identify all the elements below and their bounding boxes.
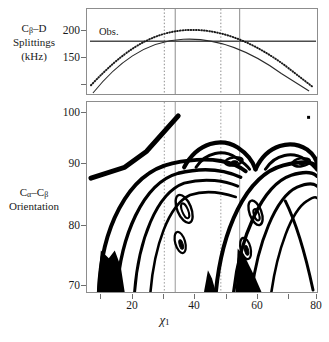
contour-left-dome-4 — [150, 192, 235, 292]
splittings-solid-curve — [93, 39, 309, 93]
xtick-60: 60 — [244, 299, 270, 311]
contour-lines-group — [91, 116, 317, 292]
top-y-label-line2: Splittings — [2, 36, 66, 50]
xtick-mark-50 — [226, 294, 227, 299]
point-marker — [307, 116, 310, 119]
obs-label: Obs. — [99, 26, 119, 37]
bottom-ytick-100: 100 — [48, 106, 80, 118]
chi-subscript: 1 — [165, 317, 170, 327]
xtick-40: 40 — [181, 299, 207, 311]
bottom-y-label-line2: Orientation — [2, 200, 66, 214]
bottom-ytick-70: 70 — [48, 279, 80, 291]
contour-center-node-right-core — [299, 162, 306, 166]
beta-subscript-2: β — [44, 190, 48, 199]
xtick-20: 20 — [119, 299, 145, 311]
top-ytick-200: 200 — [52, 24, 80, 36]
contour-center-node-left-core — [231, 161, 238, 165]
contour-left-ring-core — [178, 239, 185, 250]
x-axis-title: χ1 — [0, 312, 329, 328]
xtick-mark-30 — [163, 294, 164, 299]
xtick-mark-10 — [100, 294, 101, 299]
contour-right-ring-lower-core — [243, 245, 249, 256]
orientation-contour-panel — [86, 101, 318, 293]
basin-center — [204, 270, 216, 292]
splittings-plot-panel — [86, 8, 318, 95]
xtick-mark-70 — [288, 294, 289, 299]
contour-left-ring-outer — [172, 193, 196, 226]
contour-right-tail — [285, 201, 313, 290]
contour-diagonal-band — [91, 116, 178, 178]
bottom-ytick-90: 90 — [48, 157, 80, 169]
xtick-80: 80 — [303, 299, 329, 311]
bottom-ytick-80: 80 — [48, 219, 80, 231]
bottom-y-label-line1: Cα–Cβ — [2, 186, 66, 200]
orientation-contour-svg — [87, 102, 317, 292]
bottom-panel-y-axis-label: Cα–Cβ Orientation — [2, 186, 66, 214]
top-ytick-150: 150 — [52, 51, 80, 63]
figure-container: Cβ–D Splittings (kHz) 200 150 Obs. Cα–Cβ… — [0, 0, 329, 342]
splittings-dotted-curve — [91, 30, 313, 87]
splittings-plot-svg — [87, 9, 317, 94]
